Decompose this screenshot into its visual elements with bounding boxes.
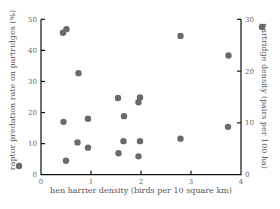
right-y-tick-label: 10 (245, 119, 254, 127)
data-point (177, 135, 183, 141)
left-y-tick-label: 20 (28, 109, 37, 117)
x-tick-label: 1 (89, 178, 93, 186)
data-point (63, 158, 69, 164)
x-tick-label: 2 (139, 178, 143, 186)
right-y-axis-title: partridge density (pairs per 100 ha) (260, 23, 269, 169)
data-point (137, 94, 143, 100)
x-tick-label: 3 (189, 178, 193, 186)
left-y-tick-label: 10 (28, 140, 37, 148)
data-point (115, 150, 121, 156)
right-y-tick-label: 30 (245, 16, 254, 24)
left-y-tick-label: 30 (28, 78, 37, 86)
legend-dot-left (16, 163, 22, 169)
data-point (85, 116, 91, 122)
data-point (120, 138, 126, 144)
legend-dot-right (259, 24, 265, 30)
right-y-tick-label: 20 (245, 68, 254, 76)
x-tick-label: 0 (39, 178, 43, 186)
data-point (85, 144, 91, 150)
data-point (135, 153, 141, 159)
left-y-tick-label: 0 (33, 171, 37, 179)
left-y-axis-title: raptor predation rate on partridges (%) (8, 10, 17, 170)
data-point (115, 95, 121, 101)
data-point (121, 113, 127, 119)
right-y-tick-label: 0 (245, 171, 249, 179)
data-point (74, 139, 80, 145)
left-y-tick-label: 50 (28, 16, 37, 24)
x-tick-label: 4 (239, 178, 244, 186)
scatter-chart: 01234010203040500102030 hen harrier dens… (0, 0, 280, 209)
x-axis-title: hen harrier density (birds per 10 square… (50, 186, 232, 195)
data-point (225, 52, 231, 58)
left-y-tick-label: 40 (28, 47, 37, 55)
data-points (60, 26, 232, 164)
data-point (63, 26, 69, 32)
data-point (60, 119, 66, 125)
data-point (225, 124, 231, 130)
data-point (75, 70, 81, 76)
data-point (177, 33, 183, 39)
data-point (137, 138, 143, 144)
